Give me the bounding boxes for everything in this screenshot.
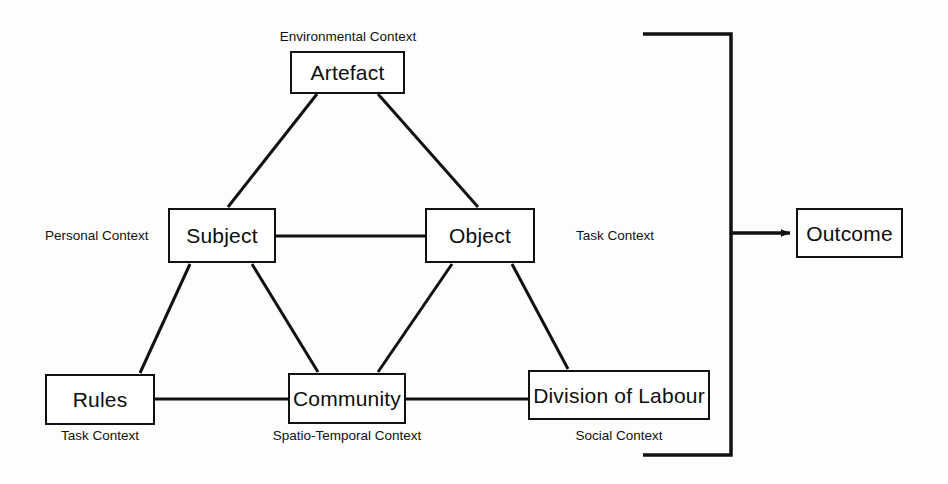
edge-subject-rules [140, 264, 190, 373]
node-division-of-labour-label: Division of Labour [533, 385, 705, 406]
node-rules-label: Rules [73, 389, 128, 410]
node-rules[interactable]: Rules [45, 374, 155, 425]
context-label-environmental: Environmental Context [280, 30, 417, 44]
node-subject[interactable]: Subject [168, 208, 276, 263]
context-label-social: Social Context [575, 429, 662, 443]
node-outcome[interactable]: Outcome [796, 208, 903, 258]
context-label-personal: Personal Context [45, 229, 149, 243]
node-subject-label: Subject [186, 225, 257, 246]
edge-object-community [378, 264, 452, 372]
context-label-task-object: Task Context [576, 229, 654, 243]
node-community-label: Community [293, 388, 401, 409]
node-division-of-labour[interactable]: Division of Labour [528, 370, 710, 420]
node-outcome-label: Outcome [806, 223, 893, 244]
node-artefact-label: Artefact [311, 62, 385, 83]
diagram-canvas: Artefact Subject Object Rules Community … [0, 0, 948, 484]
edge-artefact-object [378, 94, 478, 207]
context-label-spatio-temporal: Spatio-Temporal Context [273, 429, 422, 443]
node-artefact[interactable]: Artefact [290, 51, 405, 94]
edge-object-division [512, 264, 568, 369]
node-object-label: Object [449, 225, 511, 246]
edge-artefact-subject [228, 94, 317, 207]
node-object[interactable]: Object [425, 208, 535, 263]
edge-subject-community [252, 264, 318, 372]
context-label-task-rules: Task Context [61, 429, 139, 443]
node-community[interactable]: Community [288, 373, 406, 424]
